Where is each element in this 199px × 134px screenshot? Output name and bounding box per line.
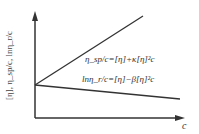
lower-line [35, 85, 180, 99]
lower-line-equation: lnη_r/c=[η]−β[η]²c [82, 74, 154, 84]
upper-line-equation: η_sp/c=[η]+κ[η]²c [85, 54, 155, 64]
y-axis-arrow [32, 11, 38, 21]
y-axis-label: [η], η_sp/c, lnη_r/c [4, 31, 14, 100]
diagram-canvas [0, 0, 199, 134]
x-axis-label: c [182, 120, 186, 131]
